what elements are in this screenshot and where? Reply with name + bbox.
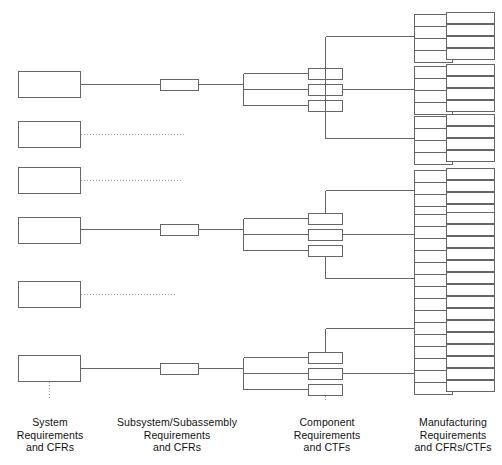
component-box-2c[interactable]: [309, 246, 343, 257]
manufacturing-group-6: [415, 261, 495, 311]
label-line: Component: [272, 416, 382, 429]
mfg-right-box[interactable]: [447, 345, 495, 356]
system-box-5[interactable]: [19, 282, 81, 308]
mfg-right-box[interactable]: [447, 249, 495, 260]
system-box-1[interactable]: [19, 72, 81, 98]
component-box-3c[interactable]: [309, 385, 343, 396]
label-line: Subsystem/Subassembly: [103, 416, 251, 429]
column-label-system: System Requirements and CFRs: [0, 416, 100, 454]
component-box-2b[interactable]: [309, 230, 343, 241]
mfg-right-box[interactable]: [447, 261, 495, 272]
system-box-3[interactable]: [19, 168, 81, 194]
column-label-subsystem: Subsystem/Subassembly Requirements and C…: [103, 416, 251, 454]
label-line: and CFRs: [103, 441, 251, 454]
manufacturing-group-1: [415, 13, 495, 63]
mfg-right-box[interactable]: [447, 13, 495, 24]
label-line: Requirements: [272, 429, 382, 442]
mfg-right-box[interactable]: [447, 285, 495, 296]
subsystem-box-2[interactable]: [161, 225, 199, 236]
system-box-2[interactable]: [19, 122, 81, 148]
label-line: Requirements: [390, 429, 502, 442]
mfg-right-box[interactable]: [447, 309, 495, 320]
component-box-2a[interactable]: [309, 214, 343, 225]
label-line: System: [0, 416, 100, 429]
manufacturing-group-8: [415, 357, 495, 395]
manufacturing-group-4: [415, 169, 495, 219]
mfg-right-box[interactable]: [447, 169, 495, 180]
mfg-right-box[interactable]: [447, 37, 495, 48]
subsystem-box-3[interactable]: [161, 364, 199, 375]
mfg-right-box[interactable]: [447, 151, 495, 162]
manufacturing-group-7: [415, 309, 495, 359]
mfg-right-box[interactable]: [447, 89, 495, 100]
label-line: and CTFs: [272, 441, 382, 454]
label-line: Requirements: [103, 429, 251, 442]
mfg-right-box[interactable]: [447, 369, 495, 380]
label-line: Manufacturing: [390, 416, 502, 429]
column-label-manufacturing: Manufacturing Requirements and CFRs/CTFs: [390, 416, 502, 454]
mfg-right-box[interactable]: [447, 181, 495, 192]
mfg-right-box[interactable]: [447, 127, 495, 138]
mfg-right-box[interactable]: [447, 321, 495, 332]
system-box-4[interactable]: [19, 218, 81, 244]
requirements-flowdown-diagram: System Requirements and CFRs Subsystem/S…: [0, 0, 502, 465]
mfg-right-box[interactable]: [447, 213, 495, 224]
mfg-right-box[interactable]: [447, 225, 495, 236]
column-label-component: Component Requirements and CTFs: [272, 416, 382, 454]
mfg-right-box[interactable]: [447, 237, 495, 248]
mfg-right-box[interactable]: [447, 193, 495, 204]
mfg-right-box[interactable]: [447, 115, 495, 126]
diagram-canvas: [0, 0, 502, 465]
mfg-right-box[interactable]: [447, 273, 495, 284]
component-box-3a[interactable]: [309, 353, 343, 364]
mfg-right-box[interactable]: [447, 333, 495, 344]
mfg-right-box[interactable]: [447, 65, 495, 76]
manufacturing-group-5: [415, 213, 495, 263]
mfg-right-box[interactable]: [447, 297, 495, 308]
label-line: and CFRs/CTFs: [390, 441, 502, 454]
label-line: and CFRs: [0, 441, 100, 454]
manufacturing-group-2: [415, 65, 495, 115]
mfg-right-box[interactable]: [447, 77, 495, 88]
mfg-right-box[interactable]: [447, 357, 495, 368]
subsystem-box-1[interactable]: [161, 80, 199, 91]
manufacturing-group-3: [415, 115, 495, 165]
mfg-right-box[interactable]: [447, 49, 495, 60]
mfg-right-box[interactable]: [447, 381, 495, 392]
label-line: Requirements: [0, 429, 100, 442]
mfg-right-box[interactable]: [447, 101, 495, 112]
mfg-right-box[interactable]: [447, 25, 495, 36]
mfg-right-box[interactable]: [447, 139, 495, 150]
system-box-6[interactable]: [19, 356, 81, 382]
component-box-3b[interactable]: [309, 369, 343, 380]
